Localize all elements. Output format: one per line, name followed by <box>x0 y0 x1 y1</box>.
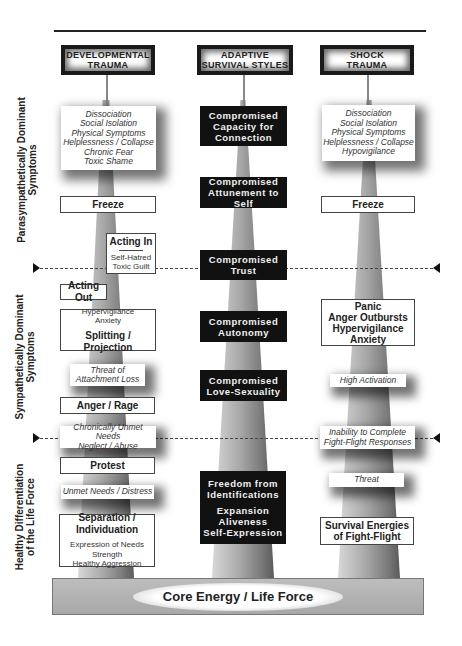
top-rule <box>54 30 426 32</box>
dev-unmet-box: Unmet Needs / Distress <box>61 485 154 499</box>
adaptive-box-attunement: Compromised Attunement to Self <box>200 177 287 208</box>
side-label-healthy: Healthy Differentiation of the Life Forc… <box>14 449 38 585</box>
adaptive-box-trust: Compromised Trust <box>200 250 287 280</box>
side-label-sympathetic: Sympathetically Dominant Symptoms <box>14 287 38 427</box>
core-energy-glow: Core Energy / Life Force <box>133 583 343 611</box>
dev-splitting-box: Hypervigilance Anxiety Splitting / Proje… <box>60 309 156 351</box>
stem-developmental <box>106 74 108 106</box>
dev-unmet-chronic-box: Chronically Unmet Needs Neglect / Abuse <box>60 426 156 448</box>
adaptive-box-love-sexuality: Compromised Love-Sexuality <box>200 370 287 401</box>
dev-symptoms-box: Dissociation Social Isolation Physical S… <box>61 106 156 170</box>
arrow-right-marker-upper <box>33 263 40 273</box>
dev-separation-box: Separation / Individuation Expression of… <box>59 514 155 567</box>
arrow-left-marker-upper <box>433 263 440 273</box>
divider-rule <box>119 250 143 251</box>
shock-symptoms-box: Dissociation Social Isolation Physical S… <box>322 105 415 161</box>
dev-acting-in-box: Acting In Self-Hatred Toxic Guilt <box>106 233 156 274</box>
header-developmental-trauma: Developmental Trauma <box>61 45 155 75</box>
adaptive-box-connection: Compromised Capacity for Connection <box>200 106 287 146</box>
dev-protest-box: Protest <box>60 457 155 474</box>
arrow-left-marker-lower <box>433 433 440 443</box>
adaptive-box-autonomy: Compromised Autonomy <box>200 311 287 342</box>
dev-threat-box: Threat of Attachment Loss <box>70 364 145 386</box>
adaptive-box-freedom: Freedom from Identifications Expansion A… <box>200 471 286 544</box>
core-energy-label: Core Energy / Life Force <box>163 589 313 604</box>
shock-panic-box: Panic Anger Outbursts Hypervigilance Anx… <box>321 299 415 346</box>
side-label-parasympathetic: Parasympathetically Dominant Symptoms <box>16 90 40 250</box>
shock-high-activation-box: High Activation <box>330 374 406 387</box>
stem-shock <box>367 74 369 106</box>
shock-survival-box: Survival Energies of Fight-Flight <box>320 517 414 545</box>
header-adaptive-survival-styles: Adaptive Survival Styles <box>197 45 293 75</box>
dev-freeze-box: Freeze <box>60 196 156 213</box>
dev-acting-out-box: Acting Out <box>60 284 107 300</box>
shock-freeze-box: Freeze <box>321 196 415 213</box>
header-shock-trauma: Shock Trauma <box>320 45 414 75</box>
core-energy-base: Core Energy / Life Force <box>52 578 424 615</box>
dev-anger-box: Anger / Rage <box>60 397 155 414</box>
arrow-right-marker-lower <box>33 433 40 443</box>
shock-inability-box: Inability to Complete Fight-Flight Respo… <box>320 426 415 449</box>
stem-adaptive <box>243 74 245 106</box>
shock-threat-box: Threat <box>329 473 404 487</box>
